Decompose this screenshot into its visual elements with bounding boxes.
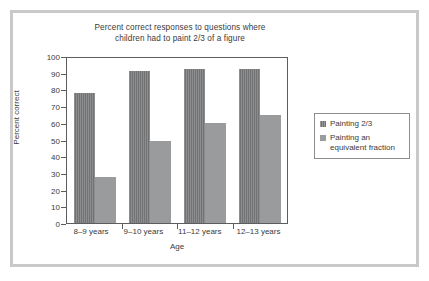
y-tick-label: 0: [56, 220, 60, 229]
x-tick-label: 12–13 years: [236, 227, 280, 236]
bar: [184, 69, 205, 223]
bar: [129, 71, 150, 223]
bar-group: [74, 58, 116, 223]
bar-group: [239, 58, 281, 223]
x-tick-mark: [122, 224, 123, 229]
y-tick-label: 50: [51, 136, 60, 145]
plot-area: [66, 57, 288, 224]
y-tick-label: 40: [51, 153, 60, 162]
chart-title-line-2: children had to paint 2/3 of a figure: [40, 33, 320, 44]
legend-label: Painting 2/3: [330, 119, 372, 129]
x-tick-mark: [177, 224, 178, 229]
legend-label: Painting an equivalent fraction: [330, 133, 395, 153]
y-tick-mark: [61, 124, 66, 125]
y-axis-title: Percent correct: [12, 63, 21, 173]
bar: [260, 115, 281, 223]
y-tick-label: 10: [51, 203, 60, 212]
y-tick-mark: [61, 141, 66, 142]
y-tick-mark: [61, 107, 66, 108]
bar: [205, 123, 226, 223]
y-axis-tick-labels: 1009080706050403020100: [30, 57, 60, 224]
chart-figure: Percent correct responses to questions w…: [0, 0, 429, 281]
bar: [95, 177, 116, 223]
y-tick-mark: [61, 57, 66, 58]
legend-swatch-icon: [320, 121, 326, 127]
bar-group: [184, 58, 226, 223]
y-tick-label: 80: [51, 86, 60, 95]
y-tick-mark: [61, 224, 66, 225]
y-tick-mark: [61, 74, 66, 75]
y-tick-mark: [61, 174, 66, 175]
legend-swatch-icon: [320, 135, 326, 141]
y-tick-label: 100: [47, 53, 60, 62]
x-tick-label: 11–12 years: [178, 227, 221, 236]
chart-title-line-1: Percent correct responses to questions w…: [95, 23, 266, 32]
bar: [150, 141, 171, 223]
y-tick-label: 90: [51, 69, 60, 78]
x-axis-title: Age: [66, 242, 288, 251]
y-tick-label: 30: [51, 169, 60, 178]
x-tick-mark: [233, 224, 234, 229]
legend-item[interactable]: Painting an equivalent fraction: [320, 133, 405, 153]
bars-layer: [67, 58, 287, 223]
x-tick-label: 9–10 years: [124, 227, 164, 236]
x-tick-label: 8–9 years: [73, 227, 108, 236]
bar: [239, 69, 260, 223]
legend-item[interactable]: Painting 2/3: [320, 119, 405, 129]
y-tick-label: 20: [51, 186, 60, 195]
bar-group: [129, 58, 171, 223]
y-tick-label: 60: [51, 119, 60, 128]
chart-title: Percent correct responses to questions w…: [40, 22, 320, 44]
y-tick-mark: [61, 157, 66, 158]
bar: [74, 93, 95, 223]
y-tick-mark: [61, 90, 66, 91]
y-tick-mark: [61, 207, 66, 208]
chart-legend: Painting 2/3Painting an equivalent fract…: [314, 113, 410, 159]
y-tick-mark: [61, 191, 66, 192]
y-tick-label: 70: [51, 103, 60, 112]
